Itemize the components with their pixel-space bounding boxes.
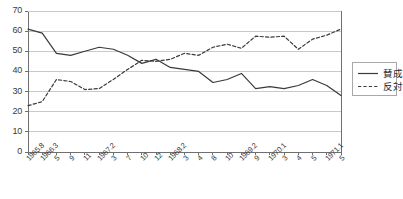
series-line-2 bbox=[28, 29, 341, 106]
gridlines bbox=[28, 11, 341, 152]
series-line-1 bbox=[28, 29, 341, 95]
legend-label: 賛成 bbox=[383, 69, 403, 79]
chart-legend: 賛成反対 bbox=[352, 62, 397, 96]
legend-swatch-dashed bbox=[357, 82, 379, 91]
legend-item-1: 賛成 bbox=[357, 67, 391, 80]
y-tick-label: 30 bbox=[2, 87, 22, 96]
y-tick-label: 40 bbox=[2, 66, 22, 75]
legend-label: 反対 bbox=[383, 82, 403, 92]
y-tick-label: 10 bbox=[2, 127, 22, 136]
y-tick-label: 60 bbox=[2, 26, 22, 35]
axes bbox=[25, 11, 341, 152]
y-tick-label: 70 bbox=[2, 6, 22, 15]
y-tick-label: 20 bbox=[2, 107, 22, 116]
y-tick-label: 0 bbox=[2, 147, 22, 156]
y-tick-label: 50 bbox=[2, 46, 22, 55]
series-lines bbox=[28, 29, 341, 106]
legend-swatch-solid bbox=[357, 69, 379, 78]
legend-item-2: 反対 bbox=[357, 80, 391, 93]
